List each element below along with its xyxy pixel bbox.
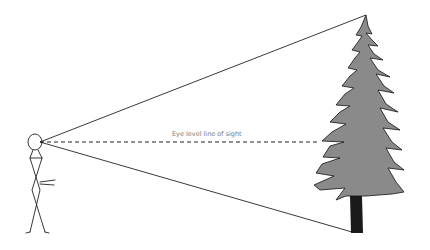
diagram-canvas: Eye level line of sight — [0, 0, 430, 250]
tree-foliage — [314, 15, 404, 200]
stick-figure-observer — [26, 134, 55, 233]
tree-trunk — [350, 196, 363, 233]
line-to-tree-top — [40, 15, 366, 142]
eye-level-label: Eye level line of sight — [172, 130, 242, 138]
pine-tree — [314, 15, 404, 233]
head — [28, 134, 42, 150]
line-to-tree-base — [40, 142, 352, 232]
